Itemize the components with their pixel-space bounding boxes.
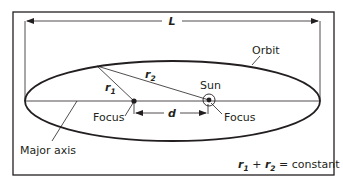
equation-label: r1 + r2 = constant <box>238 158 340 173</box>
distance-dimension: d <box>134 103 208 120</box>
length-label: L <box>168 15 175 28</box>
major-axis-label: Major axis <box>20 144 76 157</box>
sun-focus-point <box>207 98 212 103</box>
distance-label: d <box>168 107 176 120</box>
length-dimension: L <box>25 15 320 101</box>
radius-lines: r1 r2 <box>97 66 209 101</box>
r1-label: r1 <box>105 81 116 96</box>
focus-right-label: Focus <box>224 111 256 124</box>
r2-label: r2 <box>145 68 156 83</box>
orbit-diagram: L Orbit r1 r2 Sun Focus Focus d Major ax… <box>0 0 343 180</box>
focus-left-point <box>131 98 136 103</box>
sun-label: Sun <box>200 79 221 92</box>
orbit-label: Orbit <box>252 44 280 57</box>
focus-left-label: Focus <box>93 111 125 124</box>
